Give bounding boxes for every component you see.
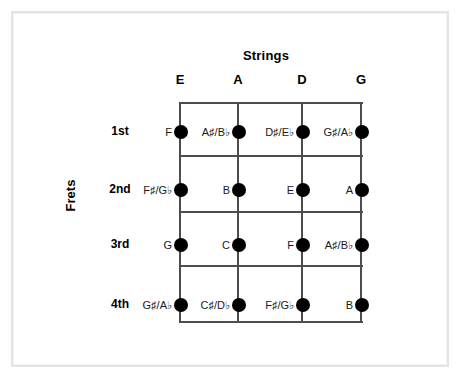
note-dot-4th-G <box>355 298 369 312</box>
strings-axis-title: Strings <box>108 48 424 63</box>
note-label-3rd-G: A♯/B♭ <box>257 239 353 252</box>
string-header-a: A <box>218 72 258 87</box>
string-header-g: G <box>341 72 381 87</box>
string-header-d: D <box>282 72 322 87</box>
note-label-4th-G: B <box>257 299 353 311</box>
note-dot-1st-G <box>355 125 369 139</box>
note-dot-3rd-G <box>355 238 369 252</box>
note-dot-2nd-G <box>355 183 369 197</box>
note-label-2nd-G: A <box>257 184 353 196</box>
string-header-e: E <box>160 72 200 87</box>
page-root: Strings Frets EADG 1st2nd3rd4th FA♯/B♭D♯… <box>0 0 462 383</box>
note-label-1st-G: G♯/A♭ <box>257 126 353 139</box>
